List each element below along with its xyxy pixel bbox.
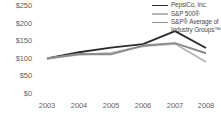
legend-swatch-pepsico: [152, 5, 168, 7]
x-axis-tick: 2005: [96, 101, 126, 110]
x-axis-tick: 2006: [128, 101, 158, 110]
legend-label-sp500: S&P 500®: [171, 10, 221, 18]
legend-item-sp500: S&P 500®: [152, 10, 221, 18]
x-axis-tick: 2007: [160, 101, 190, 110]
legend-swatch-sp-industry-groups: [152, 22, 168, 24]
x-axis: 2003 2004 2005 2006 2007 2008: [0, 101, 221, 113]
legend-swatch-sp500: [152, 13, 168, 15]
legend-label-pepsico: PepsiCo, Inc.: [171, 1, 221, 9]
legend-label-sp-industry-groups: S&P® Average of: [171, 18, 221, 26]
x-axis-tick: 2004: [64, 101, 94, 110]
legend-item-sp-industry-groups: S&P® Average of Industry Groups™: [152, 18, 221, 33]
legend-item-pepsico: PepsiCo, Inc.: [152, 1, 221, 9]
legend-label-sp-industry-groups-line2: Industry Groups™: [171, 26, 221, 34]
x-axis-tick: 2003: [32, 101, 62, 110]
stock-performance-chart: $250 $200 $150 $100 $50 $0 PepsiCo, Inc.…: [0, 0, 221, 116]
x-axis-tick: 2008: [191, 101, 221, 110]
chart-legend: PepsiCo, Inc. S&P 500® S&P® Average of I…: [152, 1, 221, 34]
